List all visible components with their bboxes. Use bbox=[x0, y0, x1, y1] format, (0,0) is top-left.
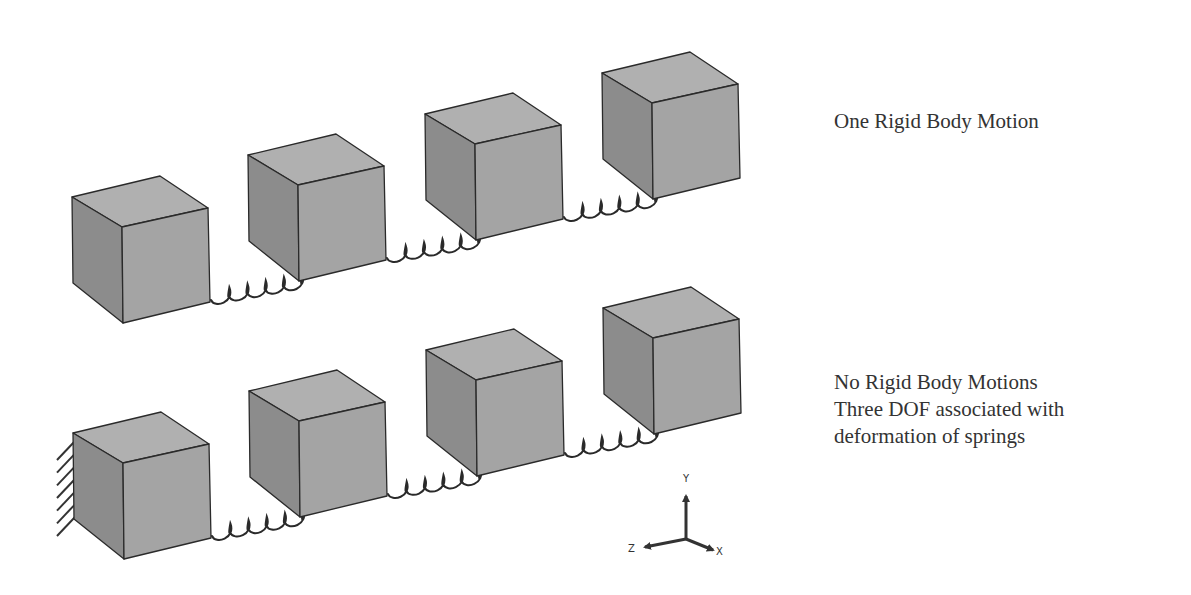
caption-one-rigid-body-motion: One Rigid Body Motion bbox=[834, 108, 1039, 135]
spring-icon bbox=[564, 192, 657, 221]
spring-icon bbox=[212, 510, 304, 540]
mass-cube bbox=[249, 370, 387, 517]
mass-cube bbox=[603, 287, 741, 434]
caption-top-text: One Rigid Body Motion bbox=[834, 108, 1039, 135]
cube-front-face bbox=[475, 125, 563, 240]
z-axis-label: Z bbox=[628, 543, 635, 554]
fixed-support-hatch-icon bbox=[57, 441, 75, 536]
cube-front-face bbox=[122, 208, 210, 323]
x-axis-arrow bbox=[686, 539, 713, 550]
spring-icon bbox=[387, 233, 480, 262]
caption-bottom-line-2: Three DOF associated with bbox=[834, 396, 1064, 423]
mass-cube bbox=[426, 329, 564, 476]
mass-cube bbox=[72, 176, 210, 323]
caption-bottom-line-3: deformation of springs bbox=[834, 423, 1064, 450]
cube-front-face bbox=[299, 402, 387, 517]
mass-cube bbox=[73, 412, 211, 559]
axis-triad-icon: Y Z X bbox=[628, 473, 723, 557]
cubes bbox=[72, 52, 740, 323]
cube-front-face bbox=[653, 319, 741, 434]
x-axis-label: X bbox=[716, 546, 723, 557]
spring-icon bbox=[388, 469, 481, 498]
top-row-unconstrained-system bbox=[72, 52, 740, 323]
caption-bottom-line-1: No Rigid Body Motions bbox=[834, 369, 1064, 396]
caption-no-rigid-body-motions: No Rigid Body Motions Three DOF associat… bbox=[834, 369, 1064, 450]
spring-mass-diagram: Y Z X bbox=[0, 0, 1191, 595]
mass-cube bbox=[602, 52, 740, 199]
cube-front-face bbox=[123, 444, 211, 559]
cubes bbox=[73, 287, 741, 559]
cube-front-face bbox=[476, 361, 564, 476]
cube-front-face bbox=[298, 166, 386, 281]
z-axis-arrow bbox=[645, 539, 686, 547]
mass-cube bbox=[425, 93, 563, 240]
y-axis-label: Y bbox=[682, 473, 690, 484]
bottom-row-grounded-system bbox=[57, 287, 741, 559]
mass-cube bbox=[248, 134, 386, 281]
spring-icon bbox=[211, 274, 303, 304]
cube-front-face bbox=[652, 84, 740, 199]
spring-icon bbox=[565, 427, 658, 457]
